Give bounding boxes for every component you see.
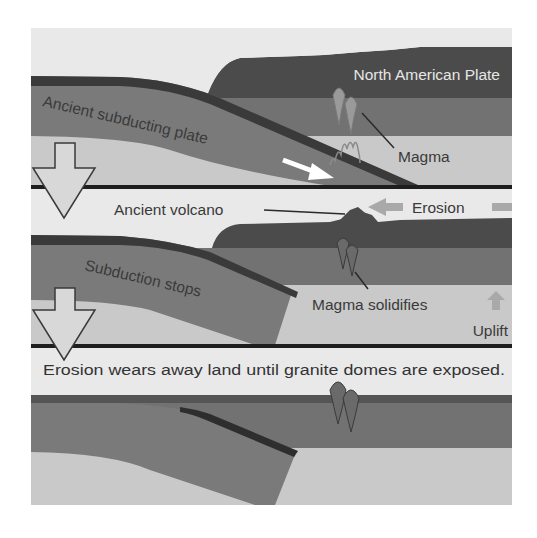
panel-1-subduction: North American Plate Ancient subducting … (31, 28, 512, 189)
panel-3-granite-domes: Erosion wears away land until granite do… (31, 348, 512, 505)
crust-top-band (31, 395, 512, 403)
separator-line (31, 344, 512, 348)
panel-2-subduction-stops: Ancient volcano Erosion Subduction stops… (31, 189, 512, 348)
label-erosion: Erosion (412, 199, 465, 216)
label-caption: Erosion wears away land until granite do… (43, 361, 505, 378)
label-magma-solidifies: Magma solidifies (312, 296, 428, 313)
label-magma: Magma (398, 148, 450, 165)
geology-diagram: North American Plate Ancient subducting … (0, 0, 537, 538)
label-ancient-volcano: Ancient volcano (114, 201, 223, 218)
label-north-american-plate: North American Plate (354, 66, 500, 83)
label-uplift: Uplift (473, 322, 509, 339)
separator-line (31, 185, 512, 189)
